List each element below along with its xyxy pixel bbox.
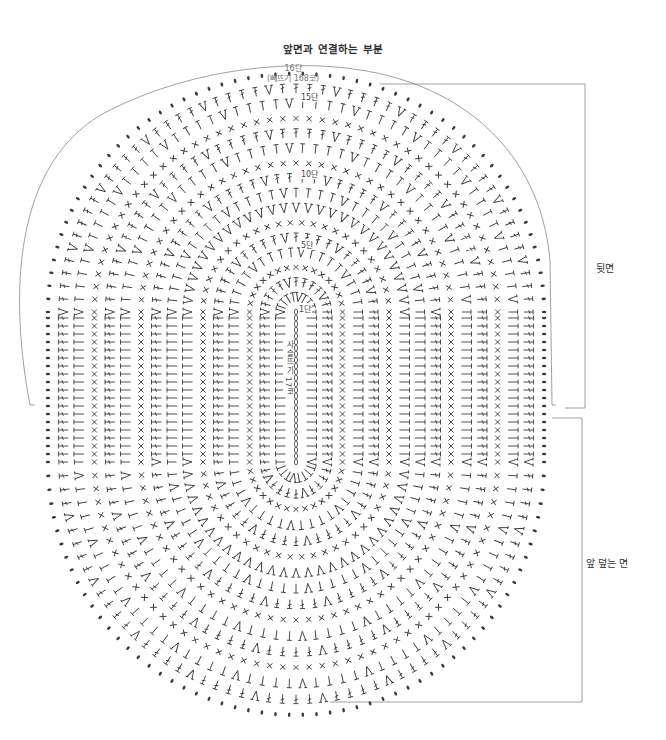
top-stitch-count: (빼뜨기 168코) — [253, 74, 333, 84]
front-cover-bracket — [330, 418, 582, 702]
front-cover-label: 앞 덮는 면 — [586, 555, 628, 570]
back-bracket — [380, 84, 585, 408]
top-round-note: 16단 (빼뜨기 168코) — [253, 64, 333, 84]
top-round-label: 16단 — [253, 64, 333, 74]
back-side-label: 뒷면 — [596, 260, 614, 275]
chart-title: 앞면과 연결하는 부분 — [0, 41, 666, 56]
round-marker-10: 10단 — [300, 168, 319, 179]
foundation-chain — [294, 309, 297, 465]
stitch-layer — [46, 72, 547, 717]
stitch-diagram — [0, 0, 666, 740]
crochet-chart: 앞면과 연결하는 부분 16단 (빼뜨기 168코) 15단 10단 5단 1단… — [0, 0, 666, 740]
round-marker-5: 5단 — [300, 239, 314, 250]
round-marker-1: 1단 — [298, 303, 312, 314]
foundation-chain-label: 사슬뜨기 17코 — [283, 340, 294, 396]
round-marker-15: 15단 — [300, 91, 319, 102]
